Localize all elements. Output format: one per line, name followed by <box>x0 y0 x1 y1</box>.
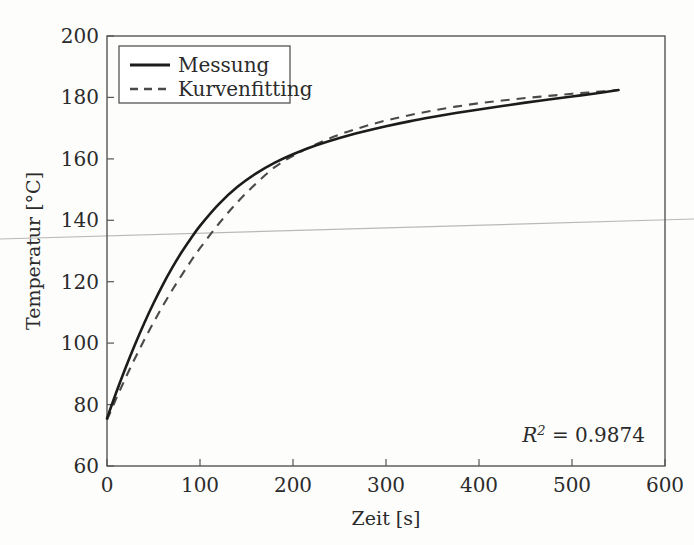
x-tick-label-200: 200 <box>274 473 312 497</box>
y-tick-label-80: 80 <box>74 393 99 417</box>
y-tick-label-160: 160 <box>61 147 99 171</box>
series-line-messung <box>107 90 619 418</box>
x-axis-title: Zeit [s] <box>352 507 421 529</box>
y-axis-title: Temperatur [°C] <box>22 172 44 330</box>
r-squared-value: 0.9874 <box>575 423 645 447</box>
x-tick-label-400: 400 <box>460 473 498 497</box>
legend: Messung Kurvenfitting <box>119 46 313 103</box>
temperature-time-chart: 60 80 100 120 140 160 180 200 0 100 200 … <box>0 0 694 545</box>
r-squared-exponent: 2 <box>536 423 545 438</box>
r-squared-equals: = <box>546 423 575 447</box>
r-squared-annotation: R2 = 0.9874 <box>521 423 645 447</box>
y-tick-label-60: 60 <box>74 454 99 478</box>
y-tick-label-140: 140 <box>61 208 99 232</box>
series-line-kurvenfitting <box>107 90 619 420</box>
x-tick-label-0: 0 <box>101 473 114 497</box>
legend-label-kurvenfitting: Kurvenfitting <box>178 77 313 101</box>
y-tick-label-120: 120 <box>61 270 99 294</box>
x-tick-label-600: 600 <box>646 473 684 497</box>
r-squared-symbol: R <box>521 423 537 447</box>
x-tick-label-100: 100 <box>181 473 219 497</box>
legend-label-messung: Messung <box>178 53 270 77</box>
y-tick-label-200: 200 <box>61 24 99 48</box>
x-tick-label-300: 300 <box>367 473 405 497</box>
x-axis-ticks <box>107 459 665 466</box>
x-tick-label-500: 500 <box>553 473 591 497</box>
y-tick-label-180: 180 <box>61 85 99 109</box>
y-tick-label-100: 100 <box>61 331 99 355</box>
chart-page: 60 80 100 120 140 160 180 200 0 100 200 … <box>0 0 694 545</box>
